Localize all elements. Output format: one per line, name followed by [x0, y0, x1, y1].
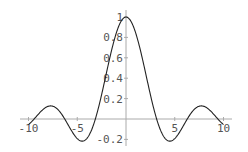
- y-tick-label: 0.2: [103, 93, 123, 106]
- x-tick-label: 5: [171, 122, 178, 135]
- y-tick-label: 1: [116, 11, 123, 24]
- plot: -10-5510 -0.20.20.40.60.81: [0, 0, 248, 152]
- y-tick-label: 0.6: [103, 52, 123, 65]
- y-tick-labels: -0.20.20.40.60.81: [97, 11, 129, 146]
- x-tick-labels: -10-5510: [19, 117, 231, 135]
- y-tick-label: -0.2: [97, 133, 124, 146]
